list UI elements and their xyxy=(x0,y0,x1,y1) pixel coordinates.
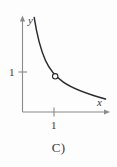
x-axis-tick-label-1: 1 xyxy=(51,119,57,131)
x-axis-label: x xyxy=(96,96,102,108)
option-letter-label: C) xyxy=(0,140,117,156)
x-axis-arrow-icon xyxy=(104,109,110,114)
figure-container: y x 1 1 C) xyxy=(0,0,117,167)
y-axis-tick-label-1: 1 xyxy=(9,66,15,78)
graph-plot: y x 1 1 xyxy=(0,0,117,138)
open-circle-point xyxy=(53,74,58,79)
y-axis-arrow-icon xyxy=(20,16,25,22)
y-axis-label: y xyxy=(27,14,33,26)
hyperbola-curve xyxy=(34,18,105,100)
